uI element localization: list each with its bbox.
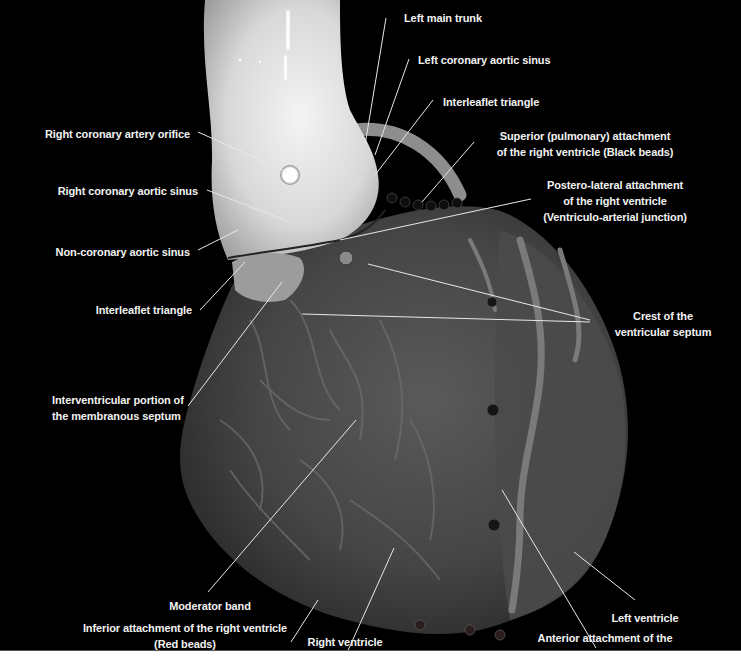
label-inferior-attachment-line2: (Red beads) <box>70 636 300 650</box>
label-non-coronary-aortic-sinus: Non-coronary aortic sinus <box>30 244 190 260</box>
label-crest-line2: ventricular septum <box>598 324 728 340</box>
label-anterior-attachment: Anterior attachment of the right ventric… <box>520 630 690 650</box>
label-right-ventricle: Right ventricle <box>295 634 395 650</box>
label-crest-line1: Crest of the <box>598 308 728 324</box>
label-postero-lateral-attachment: Postero-lateral attachment of the right … <box>535 177 695 225</box>
label-interleaflet-triangle-left: Interleaflet triangle <box>60 302 192 318</box>
label-left-ventricle: Left ventricle <box>595 610 695 626</box>
label-superior-attachment: Superior (pulmonary) attachment of the r… <box>480 128 690 160</box>
label-anterior-attachment-line1: Anterior attachment of the <box>520 630 690 646</box>
label-right-coronary-artery-orifice: Right coronary artery orifice <box>40 126 190 142</box>
label-postero-lateral-line1: Postero-lateral attachment <box>535 177 695 193</box>
label-postero-lateral-line3: (Ventriculo-arterial junction) <box>535 209 695 225</box>
label-interventricular-line2: the membranous septum <box>52 408 184 424</box>
label-inferior-attachment: Inferior attachment of the right ventric… <box>70 620 300 650</box>
right-coronary-orifice <box>280 165 300 185</box>
label-inferior-attachment-line1: Inferior attachment of the right ventric… <box>70 620 300 636</box>
label-postero-lateral-line2: of the right ventricle <box>535 193 695 209</box>
label-right-coronary-aortic-sinus: Right coronary aortic sinus <box>40 183 198 199</box>
label-superior-attachment-line1: Superior (pulmonary) attachment <box>480 128 690 144</box>
label-interleaflet-triangle-top: Interleaflet triangle <box>443 94 539 110</box>
crest-bead <box>339 251 353 265</box>
label-crest-ventricular-septum: Crest of the ventricular septum <box>598 308 728 340</box>
label-interventricular-line1: Interventricular portion of <box>52 392 184 408</box>
bottom-margin <box>0 650 741 672</box>
label-moderator-band: Moderator band <box>150 598 270 614</box>
label-left-coronary-aortic-sinus: Left coronary aortic sinus <box>418 52 551 68</box>
label-interventricular-membranous-septum: Interventricular portion of the membrano… <box>52 392 184 424</box>
label-left-main-trunk: Left main trunk <box>404 10 482 26</box>
label-superior-attachment-line2: of the right ventricle (Black beads) <box>480 144 690 160</box>
aorta <box>204 0 379 260</box>
heart-specimen-photo: Left main trunk Left coronary aortic sin… <box>0 0 741 650</box>
